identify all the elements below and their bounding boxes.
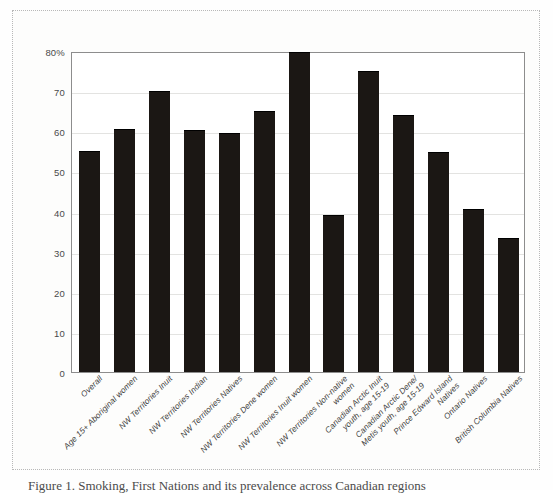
figure-caption: Figure 1. Smoking, First Nations and its… <box>28 478 528 494</box>
plot-area <box>71 52 525 373</box>
bar <box>254 111 275 372</box>
x-tick-label: NW Territories Natives <box>179 374 245 440</box>
x-tick-label-line: NW Territories Natives <box>179 374 245 440</box>
bar <box>358 71 379 372</box>
y-tick-label: 70 <box>54 87 65 98</box>
bar <box>149 91 170 372</box>
y-tick-label: 0 <box>60 368 65 379</box>
y-tick-label: 10 <box>54 327 65 338</box>
bar <box>184 130 205 372</box>
figure-frame: 01020304050607080% OverallAge 15+ Aborig… <box>12 10 540 470</box>
bar <box>219 133 240 372</box>
x-tick-label-line: British Columbia Natives <box>453 374 525 446</box>
bar <box>79 151 100 372</box>
y-tick-label: 80% <box>45 47 65 58</box>
y-tick-label: 30 <box>54 247 65 258</box>
bar <box>289 52 310 372</box>
x-tick-label: Overall <box>80 374 106 400</box>
x-axis-tick-labels: OverallAge 15+ Aboriginal womenNW Territ… <box>71 374 541 484</box>
y-tick-label: 60 <box>54 127 65 138</box>
x-tick-label-line: Overall <box>80 374 106 400</box>
x-tick-label: British Columbia Natives <box>453 374 525 446</box>
y-tick-label: 50 <box>54 167 65 178</box>
bar <box>498 238 519 372</box>
bar <box>393 115 414 372</box>
y-tick-label: 40 <box>54 207 65 218</box>
bar <box>323 215 344 372</box>
bar <box>428 152 449 372</box>
y-axis-tick-labels: 01020304050607080% <box>21 52 65 373</box>
bar <box>463 209 484 373</box>
y-tick-label: 20 <box>54 287 65 298</box>
bar <box>114 129 135 372</box>
